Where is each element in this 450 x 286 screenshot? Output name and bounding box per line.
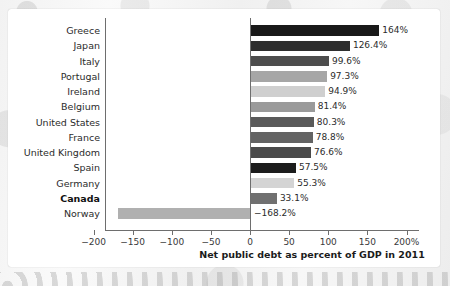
category-label-france: France xyxy=(0,130,100,145)
x-axis-line xyxy=(105,230,419,231)
bar-ireland[interactable] xyxy=(251,86,325,96)
value-label-canada: 33.1% xyxy=(280,191,309,206)
bar-france[interactable] xyxy=(251,132,313,142)
category-label-japan: Japan xyxy=(0,38,100,53)
bar-row: France78.8% xyxy=(8,130,440,145)
x-tick-label-50: 50 xyxy=(283,237,294,247)
category-label-belgium: Belgium xyxy=(0,99,100,114)
x-tick-label--100: −100 xyxy=(159,237,184,247)
value-label-greece: 164% xyxy=(382,23,408,38)
category-label-portugal: Portugal xyxy=(0,69,100,84)
category-label-spain: Spain xyxy=(0,160,100,175)
chart-figure: Greece164%Japan126.4%Italy99.6%Portugal9… xyxy=(8,9,440,267)
bar-norway[interactable] xyxy=(118,208,250,218)
x-tick--50 xyxy=(211,230,212,235)
bar-greece[interactable] xyxy=(251,25,379,35)
value-label-portugal: 97.3% xyxy=(330,69,359,84)
category-label-italy: Italy xyxy=(0,54,100,69)
x-tick-0 xyxy=(250,230,251,235)
x-tick-label-150: 150 xyxy=(359,237,376,247)
value-label-belgium: 81.4% xyxy=(318,99,347,114)
x-tick-50 xyxy=(289,230,290,235)
x-tick-label-0: 0 xyxy=(247,237,253,247)
x-tick-label-100: 100 xyxy=(320,237,337,247)
value-label-united-states: 80.3% xyxy=(317,115,346,130)
bar-belgium[interactable] xyxy=(251,102,315,112)
x-tick-label--200: −200 xyxy=(81,237,106,247)
bar-row: United States80.3% xyxy=(8,115,440,130)
x-tick--200 xyxy=(94,230,95,235)
x-tick-label-200: 200% xyxy=(394,237,420,247)
bar-row: Canada33.1% xyxy=(8,191,440,206)
x-tick-150 xyxy=(367,230,368,235)
bar-row: Germany55.3% xyxy=(8,176,440,191)
bar-row: Belgium81.4% xyxy=(8,99,440,114)
value-label-japan: 126.4% xyxy=(353,38,387,53)
bar-row: Ireland94.9% xyxy=(8,84,440,99)
value-label-spain: 57.5% xyxy=(299,160,328,175)
x-tick--150 xyxy=(133,230,134,235)
plot-area: Greece164%Japan126.4%Italy99.6%Portugal9… xyxy=(8,9,440,267)
bar-row: Norway−168.2% xyxy=(8,206,440,221)
category-label-greece: Greece xyxy=(0,23,100,38)
x-tick--100 xyxy=(172,230,173,235)
category-label-ireland: Ireland xyxy=(0,84,100,99)
bar-portugal[interactable] xyxy=(251,71,327,81)
bar-united-states[interactable] xyxy=(251,117,314,127)
value-label-norway: −168.2% xyxy=(254,206,296,221)
bar-row: Greece164% xyxy=(8,23,440,38)
bar-row: Portugal97.3% xyxy=(8,69,440,84)
bar-canada[interactable] xyxy=(251,193,277,203)
value-label-ireland: 94.9% xyxy=(328,84,357,99)
x-tick-label--50: −50 xyxy=(201,237,220,247)
value-label-italy: 99.6% xyxy=(332,54,361,69)
value-label-france: 78.8% xyxy=(316,130,345,145)
bar-row: United Kingdom76.6% xyxy=(8,145,440,160)
value-label-united-kingdom: 76.6% xyxy=(314,145,343,160)
bar-germany[interactable] xyxy=(251,178,294,188)
x-axis-title: Net public debt as percent of GDP in 201… xyxy=(188,249,436,260)
bar-spain[interactable] xyxy=(251,163,296,173)
x-tick-200 xyxy=(407,230,408,235)
category-label-germany: Germany xyxy=(0,176,100,191)
category-label-united-states: United States xyxy=(0,115,100,130)
category-label-canada: Canada xyxy=(0,191,100,206)
bar-italy[interactable] xyxy=(251,56,329,66)
category-label-norway: Norway xyxy=(0,206,100,221)
bar-row: Italy99.6% xyxy=(8,54,440,69)
page-scalloped-edge xyxy=(0,272,450,286)
bar-united-kingdom[interactable] xyxy=(251,147,311,157)
bar-row: Japan126.4% xyxy=(8,38,440,53)
value-label-germany: 55.3% xyxy=(297,176,326,191)
x-tick-label--150: −150 xyxy=(120,237,145,247)
x-tick-100 xyxy=(328,230,329,235)
bar-japan[interactable] xyxy=(251,41,350,51)
category-label-united-kingdom: United Kingdom xyxy=(0,145,100,160)
zero-reference-line xyxy=(250,18,251,230)
bar-row: Spain57.5% xyxy=(8,160,440,175)
